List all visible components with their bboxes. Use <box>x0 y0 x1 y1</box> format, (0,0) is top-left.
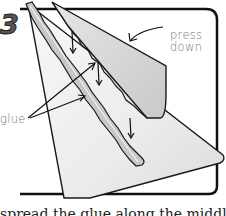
glue-label: glue <box>0 113 26 125</box>
step-number-badge: 3 <box>0 12 19 38</box>
press-label-line2: down <box>170 41 202 53</box>
press-down-arrow <box>129 27 163 41</box>
instruction-caption: spread the glue along the middle line of <box>0 207 226 216</box>
press-down-label: press down <box>170 29 202 53</box>
